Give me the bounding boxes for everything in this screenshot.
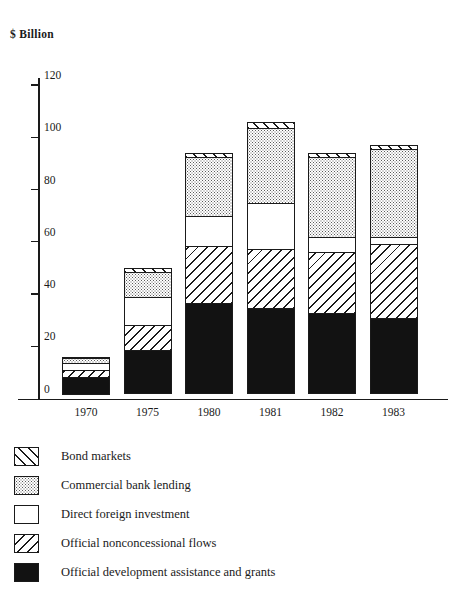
bar-segment: [247, 128, 295, 204]
legend-item: Official development assistance and gran…: [14, 558, 444, 587]
y-axis-tick-label: 0: [44, 384, 50, 396]
legend-swatch-icon: [14, 505, 39, 524]
bar-segment: [308, 252, 356, 315]
y-axis-tick-label: 120: [44, 70, 61, 82]
legend-item: Commercial bank lending: [14, 471, 444, 500]
bar-segment: [247, 308, 295, 394]
bar-segment: [62, 377, 110, 395]
x-axis-label-1981: 1981: [247, 406, 295, 418]
y-axis-tick-label: 100: [44, 123, 61, 135]
bar-segment: [185, 246, 233, 303]
bar-segment: [124, 325, 172, 351]
bar-segment: [185, 157, 233, 217]
legend-item-label: Bond markets: [61, 449, 131, 464]
bar-segment: [124, 350, 172, 394]
legend-item: Bond markets: [14, 442, 444, 471]
y-axis-tick: [31, 137, 39, 138]
legend-item-label: Official development assistance and gran…: [61, 565, 275, 580]
x-axis-label-1983: 1983: [370, 406, 418, 418]
y-axis-line: [38, 78, 40, 400]
y-axis-tick-label: 40: [44, 279, 56, 291]
stacked-bar-chart: $ Billion 020406080100120 19701975198019…: [0, 0, 455, 610]
bar-segment: [185, 303, 233, 394]
bar-segment: [308, 237, 356, 253]
bar-segment: [370, 318, 418, 394]
x-axis-label-1970: 1970: [62, 406, 110, 418]
bar-1982: [308, 153, 356, 399]
bar-segment: [247, 249, 295, 309]
legend-swatch-icon: [14, 447, 39, 466]
bar-segment: [124, 297, 172, 326]
y-axis-tick: [31, 346, 39, 347]
bar-segment: [247, 203, 295, 250]
chart-legend: Bond marketsCommercial bank lendingDirec…: [14, 442, 444, 587]
legend-item: Direct foreign investment: [14, 500, 444, 529]
y-axis-tick-label: 80: [44, 175, 56, 187]
legend-item-label: Direct foreign investment: [61, 507, 189, 522]
y-axis-tick: [31, 189, 39, 190]
legend-item-label: Official nonconcessional flows: [61, 536, 216, 551]
legend-swatch-icon: [14, 563, 39, 582]
x-axis-label-1982: 1982: [308, 406, 356, 418]
bar-1980: [185, 153, 233, 399]
y-axis-tick-label: 20: [44, 332, 56, 344]
x-axis-label-1975: 1975: [124, 406, 172, 418]
legend-swatch-icon: [14, 534, 39, 553]
bar-segment: [370, 244, 418, 320]
bar-1975: [124, 268, 172, 399]
x-axis-line: [18, 399, 448, 401]
y-axis-tick: [31, 84, 39, 85]
legend-item-label: Commercial bank lending: [61, 478, 191, 493]
bar-segment: [124, 272, 172, 298]
bar-segment: [308, 313, 356, 394]
bar-segment: [308, 157, 356, 238]
bar-1970: [62, 357, 110, 399]
bar-1981: [247, 122, 295, 399]
bar-segment: [370, 149, 418, 238]
y-axis-tick: [31, 241, 39, 242]
legend-item: Official nonconcessional flows: [14, 529, 444, 558]
y-axis-tick-label: 60: [44, 227, 56, 239]
x-axis-label-1980: 1980: [185, 406, 233, 418]
bar-segment: [185, 216, 233, 247]
y-axis-tick: [31, 293, 39, 294]
bar-1983: [370, 145, 418, 398]
plot-area: 020406080100120 197019751980198119821983: [0, 0, 455, 430]
legend-swatch-icon: [14, 476, 39, 495]
